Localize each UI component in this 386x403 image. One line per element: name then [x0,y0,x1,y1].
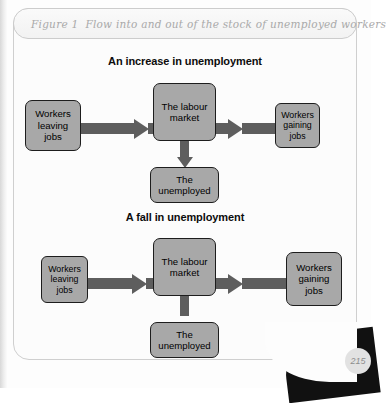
arrow-head-to-gaining-increase [228,119,243,139]
node-workers-gaining-jobs-fall: Workersgainingjobs [286,252,342,306]
arrow-shaft-right-increase [242,123,277,134]
arrow-shaft-right-fall [242,278,288,289]
panel-heading-fall: A fall in unemployment [14,211,356,223]
node-label: Theunemployed [158,329,210,352]
node-workers-leaving-jobs-increase: Workersleavingjobs [25,100,81,151]
node-label: Workersleavingjobs [35,108,71,142]
figure-number: Figure 1 [31,18,78,30]
node-workers-gaining-jobs-increase: Workersgainingjobs [275,103,320,148]
node-label: The labourmarket [162,256,208,279]
figure-caption: Flow into and out of the stock of unempl… [85,18,386,30]
node-label: Workersleavingjobs [48,264,81,295]
node-label: Workersgainingjobs [281,110,314,141]
diagram-area: An increase in unemployment Workersleavi… [14,41,356,359]
arrow-shaft-left-increase [80,123,137,134]
arrow-shaft-left-fall [87,278,135,289]
node-workers-leaving-jobs-fall: Workersleavingjobs [41,256,88,303]
page-left-edge-shadow [0,0,7,388]
arrow-head-into-market-increase [134,119,149,139]
figure-title: Figure 1Flow into and out of the stock o… [31,18,386,30]
node-labour-market-increase: The labourmarket [153,83,216,141]
arrow-head-to-gaining-fall [228,274,243,294]
node-the-unemployed-fall: Theunemployed [150,322,219,358]
node-the-unemployed-increase: Theunemployed [150,167,219,203]
page-number: 215 [350,356,365,366]
panel-heading-increase: An increase in unemployment [14,55,356,67]
node-label: Workersgainingjobs [296,262,332,296]
page-number-badge: 215 [345,348,371,374]
figure-title-bar: Figure 1Flow into and out of the stock o… [13,8,357,39]
node-label: The labourmarket [162,101,208,124]
arrow-head-into-market-fall [132,274,147,294]
node-label: Theunemployed [158,174,210,197]
node-labour-market-fall: The labourmarket [153,238,216,296]
